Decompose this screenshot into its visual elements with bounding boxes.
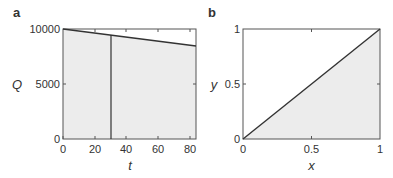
panel-a-label: a (13, 5, 21, 20)
svg-text:0: 0 (60, 143, 66, 155)
panel-b-ytick-labels: 0 0.5 1 (225, 23, 240, 145)
panel-a-shaded-area (63, 29, 196, 139)
panel-b-ylabel: y (210, 77, 219, 92)
panel-a-xtick-labels: 0 20 40 60 80 (60, 143, 196, 155)
panel-a-ytick-labels: 0 5000 10000 (29, 23, 60, 145)
panel-a: a 0 20 40 60 80 (12, 5, 196, 173)
panel-b-xlabel: x (307, 158, 315, 173)
panel-b-label: b (208, 5, 216, 20)
svg-text:80: 80 (184, 143, 196, 155)
figure: a 0 20 40 60 80 (0, 0, 393, 178)
panel-a-xlabel: t (128, 158, 133, 173)
svg-text:5000: 5000 (36, 78, 60, 90)
svg-text:0.5: 0.5 (304, 143, 319, 155)
svg-text:20: 20 (89, 143, 101, 155)
svg-text:1: 1 (377, 143, 383, 155)
panel-b: b 0 0.5 1 0 0.5 1 x y (208, 5, 383, 173)
svg-text:0: 0 (234, 133, 240, 145)
svg-text:10000: 10000 (29, 23, 60, 35)
svg-text:60: 60 (152, 143, 164, 155)
panel-b-xtick-labels: 0 0.5 1 (240, 143, 383, 155)
svg-text:1: 1 (234, 23, 240, 35)
svg-text:40: 40 (120, 143, 132, 155)
svg-text:0: 0 (240, 143, 246, 155)
svg-text:0.5: 0.5 (225, 78, 240, 90)
svg-text:0: 0 (54, 133, 60, 145)
panel-a-ylabel: Q (12, 77, 22, 92)
